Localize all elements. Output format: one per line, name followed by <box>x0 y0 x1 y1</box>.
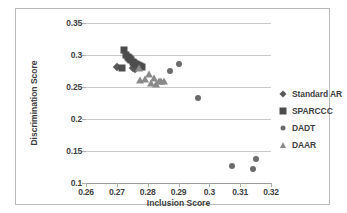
legend-item-standard-ar[interactable]: Standard AR <box>278 85 347 102</box>
y-axis-title: Discrimination Score <box>29 60 39 145</box>
triangle-marker-icon <box>278 140 288 150</box>
data-point-square <box>119 64 126 71</box>
y-gridline <box>86 151 271 152</box>
legend-item-label: SPARCCC <box>292 106 333 116</box>
legend-item-label: DAAR <box>292 140 316 150</box>
legend-item-sparccc[interactable]: SPARCCC <box>278 102 347 119</box>
x-axis-tick-label: 0.3 <box>204 187 215 197</box>
data-point-circle <box>167 68 173 74</box>
square-marker-icon <box>278 106 288 116</box>
data-point-circle <box>176 61 182 67</box>
chart-frame: 0.10.150.20.250.30.35 0.260.270.280.290.… <box>15 8 330 205</box>
data-point-circle <box>229 163 235 169</box>
data-point-circle <box>253 156 259 162</box>
plot-area <box>86 23 271 183</box>
legend-item-label: DADT <box>292 123 315 133</box>
y-gridline <box>86 87 271 88</box>
chart-legend: Standard ARSPARCCCDADTDAAR <box>278 85 347 153</box>
y-axis-tick-label: 0.2 <box>71 114 82 124</box>
y-axis-tick <box>82 119 86 120</box>
x-axis-tick-label: 0.31 <box>232 187 248 197</box>
data-point-circle <box>195 95 201 101</box>
legend-item-label: Standard AR <box>292 89 342 99</box>
legend-item-daar[interactable]: DAAR <box>278 136 347 153</box>
y-axis-tick-label: 0.15 <box>66 146 82 156</box>
y-axis-tick-label: 0.3 <box>71 50 82 60</box>
y-axis-tick-label: 0.25 <box>66 82 82 92</box>
x-axis-tick-label: 0.29 <box>171 187 187 197</box>
diamond-marker-icon <box>278 89 288 99</box>
y-axis-tick-label: 0.35 <box>66 18 82 28</box>
y-gridline <box>86 55 271 56</box>
y-gridline <box>86 23 271 24</box>
x-axis-title: Inclusion Score <box>86 198 271 208</box>
legend-item-dadt[interactable]: DADT <box>278 119 347 136</box>
x-axis-tick-label: 0.26 <box>78 187 94 197</box>
y-axis-tick <box>82 23 86 24</box>
y-axis-tick <box>82 87 86 88</box>
x-axis-tick-label: 0.27 <box>109 187 125 197</box>
y-axis-tick <box>82 55 86 56</box>
circle-marker-icon <box>278 123 288 133</box>
data-point-triangle <box>160 78 168 85</box>
y-axis-tick <box>82 151 86 152</box>
x-axis-tick-label: 0.28 <box>140 187 156 197</box>
data-point-circle <box>250 166 256 172</box>
y-gridline <box>86 119 271 120</box>
y-axis-tick-labels: 0.10.150.20.250.30.35 <box>44 23 82 183</box>
data-point-triangle <box>135 64 143 71</box>
x-axis-tick-label: 0.32 <box>263 187 279 197</box>
